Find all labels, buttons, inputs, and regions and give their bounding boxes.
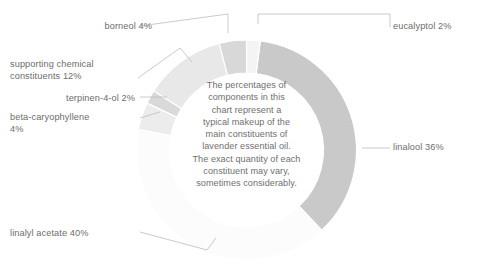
slice-label-linalyl-acetate: linalyl acetate 40%: [10, 227, 135, 239]
slice-label-borneol: borneol 4%: [68, 20, 152, 32]
leader-line-borneol: [140, 14, 228, 33]
slice-label-beta-caryophyllene: beta-caryophyllene 4%: [10, 111, 135, 136]
slice-label-eucalyptol: eucalyptol 2%: [393, 20, 488, 32]
leader-line-eucalyptol: [258, 14, 390, 27]
center-note-text: The percentages of components in this ch…: [181, 79, 312, 190]
slice-label-terpinen-4-ol: terpinen-4-ol 2%: [10, 92, 135, 104]
slice-label-linalool: linalool 36%: [393, 141, 488, 153]
donut-chart-page: The percentages of components in this ch…: [0, 0, 493, 275]
slice-label-supporting: supporting chemical constituents 12%: [10, 58, 135, 83]
